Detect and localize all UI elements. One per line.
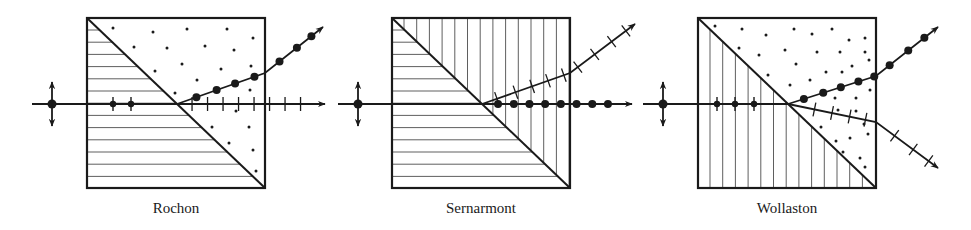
optic-axis-dot — [837, 109, 840, 112]
optic-axis-dot — [834, 97, 837, 100]
optic-axis-dot — [758, 54, 761, 57]
optic-axis-dot — [738, 47, 741, 50]
ray-in-plane-tick — [890, 130, 898, 141]
optic-axis-dot — [252, 149, 255, 152]
optic-axis-dot — [784, 49, 787, 52]
optic-axis-dot — [765, 34, 768, 37]
sernarmont-label: Sernarmont — [381, 200, 581, 217]
upper-ray — [788, 27, 938, 104]
optic-axis-dot — [767, 74, 770, 77]
optic-axis-dot — [795, 63, 798, 66]
ray-perpendicular-dot — [854, 78, 862, 86]
sernarmont-prism — [338, 18, 635, 188]
wollaston-prism — [643, 18, 938, 188]
ray-perpendicular-dot — [837, 83, 845, 91]
optic-axis-dot — [831, 28, 834, 31]
optic-axis-dot — [789, 84, 792, 87]
ray-perpendicular-dot — [250, 73, 258, 81]
ray-in-plane-tick — [909, 144, 917, 155]
ray-perpendicular-dot — [800, 95, 808, 103]
optic-axis-dot — [864, 166, 867, 169]
optic-axis-dot — [226, 28, 229, 31]
optic-axis-dot — [842, 151, 845, 154]
optic-axis-dot — [867, 133, 870, 136]
optic-axis-dot — [816, 51, 819, 54]
deviated-ray — [482, 24, 635, 104]
optic-axis-dot — [255, 170, 258, 173]
optic-axis-dot — [154, 70, 157, 73]
ray-perpendicular-dot — [213, 86, 221, 94]
optic-axis-dot — [174, 92, 177, 95]
optic-axis-dot — [793, 28, 796, 31]
optic-axis-dot — [820, 126, 823, 129]
optic-axis-dot — [811, 33, 814, 36]
rochon-prism — [32, 18, 325, 188]
optic-axis-dot — [228, 142, 231, 145]
rochon-label: Rochon — [76, 200, 276, 217]
optic-axis-dot — [249, 89, 252, 92]
ray-perpendicular-dot — [231, 80, 239, 88]
ray-perpendicular-dot — [886, 61, 894, 69]
optic-axis-dot — [741, 28, 744, 31]
ray-in-plane-tick — [607, 36, 615, 47]
optic-axis-dot — [220, 68, 223, 71]
optic-axis-dot — [864, 37, 867, 40]
optic-axis-dot — [233, 49, 236, 52]
ray-perpendicular-dot — [525, 100, 533, 108]
optic-axis-dot — [868, 59, 871, 62]
optic-axis-dot — [855, 110, 858, 113]
ray-perpendicular-dot — [588, 100, 596, 108]
optic-axis-dot — [152, 31, 155, 34]
optic-axis-dot — [166, 47, 169, 50]
optic-axis-dot — [235, 110, 238, 113]
optic-axis-dot — [869, 89, 872, 92]
optic-axis-dot — [252, 37, 255, 40]
ray-perpendicular-dot — [541, 100, 549, 108]
optic-axis-dot — [835, 140, 838, 143]
ray-perpendicular-dot — [293, 44, 301, 52]
lower-ray — [788, 104, 938, 168]
optic-axis-dot — [181, 63, 184, 66]
prism-diagram — [0, 0, 971, 230]
ray-perpendicular-dot — [276, 58, 284, 66]
ray-perpendicular-dot — [307, 32, 315, 40]
optic-axis-dot — [809, 79, 812, 82]
optic-axis-dot — [855, 97, 858, 100]
ray-perpendicular-dot — [604, 100, 612, 108]
optic-axis-dot — [841, 71, 844, 74]
ray-perpendicular-dot — [573, 100, 581, 108]
optic-axis-dot — [186, 28, 189, 31]
ray-in-plane-tick — [574, 62, 582, 73]
optic-axis-dot — [112, 27, 115, 30]
ray-perpendicular-dot — [819, 89, 827, 97]
ray-in-plane-tick — [622, 25, 630, 36]
optic-axis-dot — [825, 71, 828, 74]
optic-axis-dot — [848, 39, 851, 42]
optic-axis-dot — [133, 46, 136, 49]
optic-axis-dot — [839, 51, 842, 54]
optic-axis-dot — [250, 65, 253, 68]
ray-perpendicular-dot — [870, 73, 878, 81]
prism-interface-diagonal — [698, 18, 876, 188]
ray-in-plane-tick — [590, 49, 598, 60]
ray-in-plane-tick — [925, 155, 933, 166]
ray-perpendicular-dot — [192, 93, 200, 101]
optic-axis-dot — [851, 65, 854, 68]
optic-axis-dot — [196, 79, 199, 82]
ray-perpendicular-dot — [920, 34, 928, 42]
optic-axis-dot — [714, 25, 717, 28]
optic-axis-dot — [248, 126, 251, 129]
ray-perpendicular-dot — [510, 100, 518, 108]
optic-axis-dot — [204, 45, 207, 48]
optic-axis-dot — [211, 126, 214, 129]
optic-axis-dot — [849, 137, 852, 140]
ray-perpendicular-dot — [557, 100, 565, 108]
optic-axis-dot — [859, 157, 862, 160]
wollaston-label: Wollaston — [687, 200, 887, 217]
optic-axis-dot — [864, 51, 867, 54]
ray-perpendicular-dot — [904, 47, 912, 55]
